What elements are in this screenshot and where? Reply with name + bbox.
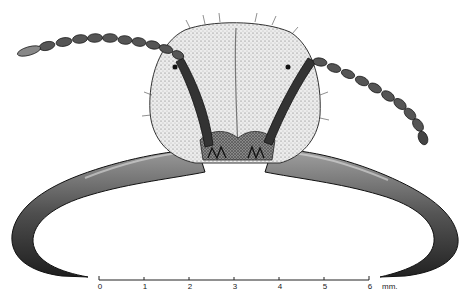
- scale-bar: [99, 276, 369, 280]
- scale-tick-5: 5: [323, 283, 327, 291]
- right-eye: [286, 65, 291, 70]
- scale-tick-2: 2: [188, 283, 192, 291]
- scale-unit: mm.: [382, 283, 398, 291]
- left-eye: [173, 65, 178, 70]
- scale-tick-6: 6: [368, 283, 372, 291]
- right-mandible: [265, 150, 458, 277]
- left-mandible: [12, 150, 205, 277]
- scale-tick-4: 4: [278, 283, 282, 291]
- scale-tick-0: 0: [98, 283, 102, 291]
- head-capsule: [142, 13, 329, 163]
- ant-head-illustration: [0, 0, 469, 298]
- scale-tick-3: 3: [233, 283, 237, 291]
- scale-tick-1: 1: [143, 283, 147, 291]
